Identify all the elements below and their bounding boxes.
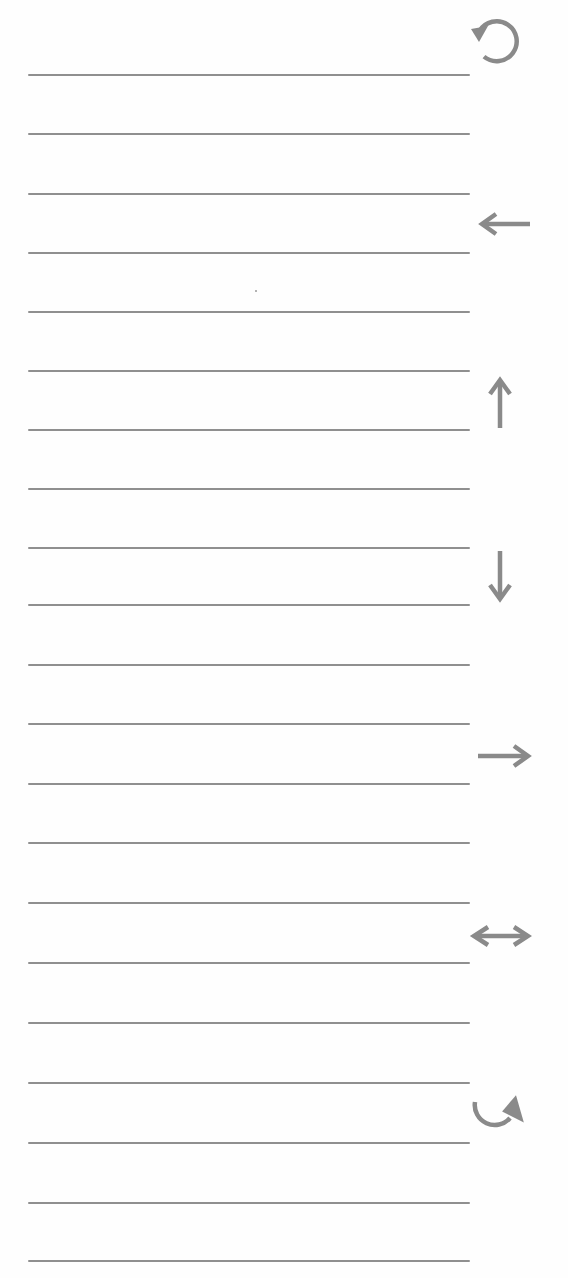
writing-line xyxy=(28,547,470,549)
writing-line xyxy=(28,370,470,372)
writing-line xyxy=(28,252,470,254)
arrow-down-icon xyxy=(468,545,532,609)
rotate-counterclockwise-icon xyxy=(466,12,530,76)
writing-line xyxy=(28,902,470,904)
writing-line xyxy=(28,604,470,606)
writing-line xyxy=(28,133,470,135)
writing-line xyxy=(28,1202,470,1204)
writing-line xyxy=(28,488,470,490)
writing-line xyxy=(28,664,470,666)
arrow-left-right-icon xyxy=(468,904,532,968)
writing-line xyxy=(28,723,470,725)
writing-line xyxy=(28,962,470,964)
writing-line xyxy=(28,429,470,431)
arrow-left-icon xyxy=(474,192,538,256)
rotate-clockwise-icon xyxy=(466,1082,530,1146)
writing-line xyxy=(28,311,470,313)
paper-speck xyxy=(255,290,257,292)
worksheet-page xyxy=(0,0,568,1278)
writing-line xyxy=(28,1022,470,1024)
writing-line xyxy=(28,74,470,76)
arrow-up-icon xyxy=(468,370,532,434)
writing-line xyxy=(28,193,470,195)
arrow-right-icon xyxy=(474,724,538,788)
writing-line xyxy=(28,783,470,785)
writing-line xyxy=(28,1260,470,1262)
writing-line xyxy=(28,1082,470,1084)
writing-line xyxy=(28,842,470,844)
writing-line xyxy=(28,1142,470,1144)
